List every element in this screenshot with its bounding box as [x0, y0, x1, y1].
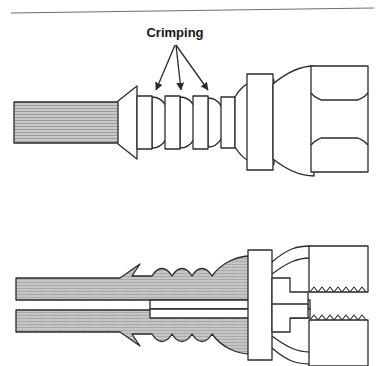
- crimp-band-3: [193, 96, 208, 149]
- crimp-band-2: [165, 96, 180, 149]
- hose: [14, 102, 119, 143]
- nut-link-lower-inner: [272, 336, 310, 352]
- nut-body-lower: [309, 320, 368, 366]
- ferrule-flare: [118, 86, 137, 159]
- thread-profile-lower: [310, 315, 366, 320]
- crimp-band-1: [137, 96, 152, 149]
- page-rule: [11, 8, 374, 13]
- crimping-arrow-left: [156, 45, 175, 90]
- crimping-label: Crimping: [146, 25, 203, 40]
- hex-nut: [311, 66, 368, 172]
- nut-link-lower: [272, 348, 310, 364]
- nut-link-upper: [272, 246, 310, 262]
- nut-link-upper-inner: [272, 258, 310, 274]
- flange-collar: [247, 74, 273, 170]
- crimp-bulges: [152, 97, 225, 148]
- figure-root: Crimping: [0, 0, 382, 366]
- nut-seat-lower: [272, 304, 308, 332]
- nut-shoulder: [273, 66, 314, 176]
- diagram-canvas: Crimping: [0, 0, 382, 366]
- crimping-arrows: [156, 45, 208, 90]
- nut-body-upper: [309, 246, 368, 292]
- section-flange: [248, 250, 272, 360]
- section-view: [16, 246, 368, 366]
- nut-seat-upper: [272, 278, 308, 306]
- crimp-band-4: [221, 97, 235, 148]
- hose-wall-upper: [16, 256, 250, 300]
- exterior-view: [14, 66, 368, 176]
- hex-nut-body: [311, 66, 368, 172]
